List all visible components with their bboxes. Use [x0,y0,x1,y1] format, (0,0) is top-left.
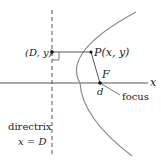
label-focus: focus [122,91,149,102]
parabola-diagram: x (D, y) P(x, y) F d focus directrix x =… [0,0,161,164]
x-axis-label: x [150,76,157,89]
label-distance: d [97,86,103,97]
label-directrix-equation: x = D [18,136,46,147]
label-directrix: directrix [8,121,52,132]
point-p [90,51,93,54]
label-point-directrix: (D, y) [25,47,53,58]
focus-point [98,81,102,85]
parabola-curve [76,12,136,156]
label-focus-letter: F [101,68,110,81]
label-point-p: P(x, y) [93,46,129,59]
